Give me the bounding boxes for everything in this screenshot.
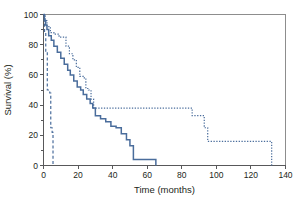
- y-tick-label: 80: [29, 40, 39, 50]
- x-tick-label: 60: [142, 170, 152, 180]
- y-axis-title: Survival (%): [2, 64, 13, 115]
- y-axis-tick-labels: 020406080100: [24, 10, 38, 171]
- survival-curve-figure: 020406080100120140 020406080100 Time (mo…: [0, 0, 301, 198]
- y-tick-label: 40: [29, 100, 39, 110]
- x-axis-tick-labels: 020406080100120140: [41, 170, 293, 180]
- x-tick-label: 40: [108, 170, 118, 180]
- x-tick-label: 20: [73, 170, 83, 180]
- series-dotted-curve: [44, 15, 272, 166]
- plot-frame: [44, 15, 286, 166]
- y-tick-label: 0: [33, 161, 38, 171]
- x-tick-label: 0: [41, 170, 46, 180]
- series-layer: [44, 15, 272, 166]
- x-tick-label: 80: [177, 170, 187, 180]
- x-tick-label: 100: [209, 170, 223, 180]
- y-tick-label: 20: [29, 130, 39, 140]
- survival-chart: 020406080100120140 020406080100 Time (mo…: [0, 0, 301, 198]
- y-tick-label: 60: [29, 70, 39, 80]
- x-tick-label: 140: [278, 170, 292, 180]
- y-tick-label: 100: [24, 10, 38, 20]
- x-tick-label: 120: [244, 170, 258, 180]
- x-axis-title: Time (months): [134, 184, 195, 195]
- axis-lines: [44, 15, 286, 166]
